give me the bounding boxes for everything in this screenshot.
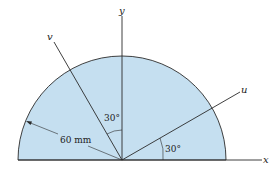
angle-u-label: 30° (165, 144, 181, 154)
y-axis-label: y (118, 5, 125, 16)
v-axis-label: v (47, 31, 53, 42)
angle-v-label: 30° (104, 113, 120, 123)
radius-label: 60 mm (60, 135, 92, 145)
x-axis-label: x (263, 154, 269, 165)
semicircle-diagram: y v u x 30° 30° 60 mm (0, 0, 279, 174)
u-axis-label: u (241, 84, 247, 95)
